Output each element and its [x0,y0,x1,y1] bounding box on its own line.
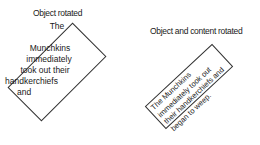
rotated-text-content: The Munchkins immediately took out their… [146,45,239,136]
text-line: took out their [5,65,85,76]
text-line: immediately [5,54,85,65]
caption-object-rotated: Object rotated [33,8,82,18]
text-line-blank [5,32,85,43]
text-line: The [5,21,85,32]
unrotated-text-content: The Munchkins immediately took out their… [5,21,85,98]
rotated-object-with-content: The Munchkins immediately took out their… [145,44,233,129]
caption-object-and-content-rotated: Object and content rotated [150,26,242,36]
text-line: and [5,87,85,98]
text-line: handkerchiefs [5,76,85,87]
text-line: Munchkins [5,43,85,54]
